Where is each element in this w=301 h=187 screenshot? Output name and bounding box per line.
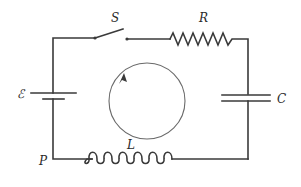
switch-label: S [111,12,119,24]
battery-symbol [31,93,76,99]
inductor-label: L [127,139,135,151]
switch-symbol [93,29,170,41]
emf-label: ℰ [17,88,24,100]
resistor-label: R [199,12,208,24]
inductor-symbol [53,99,248,164]
wire-top-left [53,38,95,93]
rlc-circuit-diagram: S R C L ℰ P [0,0,301,187]
current-loop-arrow [109,63,185,139]
capacitor-label: C [277,93,286,105]
point-p-label: P [39,155,47,167]
capacitor-symbol [222,95,270,159]
